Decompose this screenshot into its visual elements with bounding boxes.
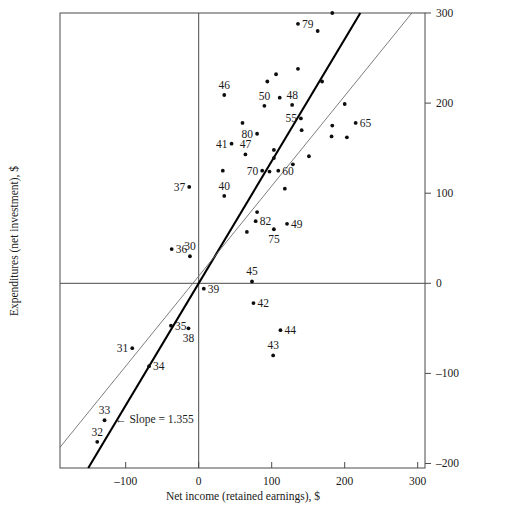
point-label: 45 <box>246 265 258 277</box>
plot-frame <box>60 13 425 468</box>
scatter-plot-figure: 7946504855658041477060374082754936303945… <box>0 0 508 514</box>
data-point <box>221 169 225 173</box>
point-label: 39 <box>208 283 220 295</box>
y-tick-label: 0 <box>436 277 442 289</box>
data-point <box>147 364 151 368</box>
y-tick-label: –200 <box>435 457 459 469</box>
x-tick-label: 300 <box>409 475 427 487</box>
data-point <box>187 185 191 189</box>
point-label: 49 <box>291 218 303 230</box>
point-label: 55 <box>285 112 297 124</box>
data-point <box>320 80 324 84</box>
data-point <box>241 121 245 125</box>
point-label: 31 <box>117 342 129 354</box>
data-point <box>279 328 283 332</box>
data-point <box>254 219 258 223</box>
zero-axis-lines <box>60 13 425 468</box>
y-tick-label: –100 <box>435 367 459 379</box>
data-point <box>290 103 294 107</box>
y-tick-label: 300 <box>436 7 454 19</box>
point-label: 38 <box>183 332 195 344</box>
data-point <box>130 346 134 350</box>
point-label: 79 <box>302 18 314 30</box>
data-point <box>330 11 334 15</box>
data-point <box>187 326 191 330</box>
point-label: 43 <box>267 339 279 351</box>
data-point <box>330 124 334 128</box>
data-point <box>169 324 173 328</box>
data-point <box>95 440 99 444</box>
point-label: 48 <box>286 89 298 101</box>
data-point <box>271 353 275 357</box>
point-label: 33 <box>99 404 111 416</box>
data-point <box>283 187 287 191</box>
data-point <box>265 80 269 84</box>
data-point <box>230 142 234 146</box>
data-point <box>244 153 248 157</box>
data-point <box>263 104 267 108</box>
point-label: 75 <box>268 233 280 245</box>
data-point <box>272 148 276 152</box>
data-point <box>255 132 259 136</box>
data-point <box>252 301 256 305</box>
data-point <box>222 93 226 97</box>
data-point <box>268 170 272 174</box>
fitted-lines <box>60 13 412 468</box>
point-label: 50 <box>259 90 271 102</box>
point-label: 60 <box>282 165 294 177</box>
data-point <box>307 154 311 158</box>
point-label: 70 <box>247 165 259 177</box>
point-label: 65 <box>360 117 372 129</box>
data-point <box>278 96 282 100</box>
data-point <box>300 128 304 132</box>
data-point <box>245 230 249 234</box>
y-axis-title: Expenditures (net investment), $ <box>8 166 21 316</box>
y-tick-label: 100 <box>436 187 454 199</box>
slope-annotation-label: ← Slope = 1.355 <box>115 413 194 426</box>
data-point <box>103 418 107 422</box>
y-tick-label: 200 <box>436 97 454 109</box>
data-point <box>276 169 280 173</box>
data-point <box>274 72 278 76</box>
data-point <box>202 287 206 291</box>
x-tick-label: 0 <box>196 475 202 487</box>
data-point <box>343 102 347 106</box>
data-point <box>222 194 226 198</box>
data-point <box>188 254 192 258</box>
point-label: 30 <box>184 240 196 252</box>
data-point <box>285 222 289 226</box>
point-label: 35 <box>175 320 187 332</box>
plot-canvas: 7946504855658041477060374082754936303945… <box>0 0 508 514</box>
data-point <box>296 67 300 71</box>
data-point <box>272 227 276 231</box>
x-tick-label: 200 <box>336 475 354 487</box>
point-label: 37 <box>174 181 186 193</box>
data-point <box>272 156 276 160</box>
point-label: 46 <box>219 79 231 91</box>
data-point <box>291 162 295 166</box>
data-point <box>299 117 303 121</box>
data-point <box>250 280 254 284</box>
point-label: 40 <box>219 180 231 192</box>
annotations-group: ← Slope = 1.355 <box>115 413 194 426</box>
reference-line <box>60 13 412 447</box>
point-label: 41 <box>216 138 228 150</box>
point-label: 82 <box>260 215 272 227</box>
data-point <box>170 247 174 251</box>
data-point <box>260 169 264 173</box>
x-tick-label: 100 <box>263 475 281 487</box>
point-label: 47 <box>240 138 252 150</box>
data-point <box>354 121 358 125</box>
point-label: 32 <box>91 426 103 438</box>
point-label: 34 <box>153 360 165 372</box>
data-point <box>330 135 334 139</box>
data-point <box>255 210 259 214</box>
x-axis-title: Net income (retained earnings), $ <box>166 490 320 503</box>
point-label: 42 <box>257 297 269 309</box>
data-point <box>316 29 320 33</box>
data-point <box>345 135 349 139</box>
point-label: 44 <box>284 324 296 336</box>
x-tick-label: –100 <box>113 475 137 487</box>
data-point <box>296 22 300 26</box>
